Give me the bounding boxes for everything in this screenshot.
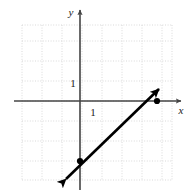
grid-lines xyxy=(22,25,172,180)
y-axis-label: y xyxy=(68,6,74,18)
x-axis-label: x xyxy=(178,104,184,116)
data-point-y-intercept xyxy=(77,158,83,164)
coordinate-plane-figure: y x 1 1 xyxy=(0,0,193,196)
y-axis-tick-label-1: 1 xyxy=(70,77,76,89)
graph-canvas: y x 1 1 xyxy=(0,0,193,196)
data-point-x-intercept xyxy=(154,98,160,104)
x-axis-tick-label-1: 1 xyxy=(90,106,96,118)
